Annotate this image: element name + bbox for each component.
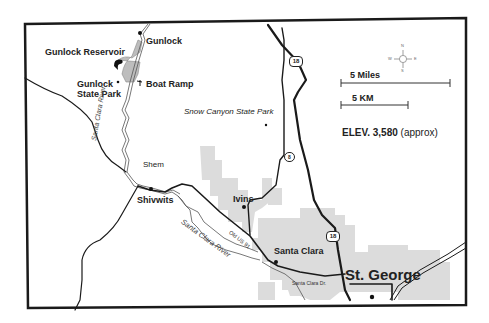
snow-canyon-marker bbox=[265, 124, 267, 126]
label-st-george: St. George bbox=[345, 267, 421, 282]
gunlock-marker bbox=[138, 31, 142, 35]
state-park-marker bbox=[117, 81, 120, 84]
route-18-shield-north: 18 bbox=[289, 56, 303, 67]
compass-s: S bbox=[401, 69, 404, 73]
ivins-marker bbox=[242, 205, 246, 209]
label-snow-canyon: Snow Canyon State Park bbox=[184, 108, 273, 116]
santa-clara-marker bbox=[274, 260, 278, 264]
reservoir-dam bbox=[114, 60, 123, 70]
route-18-shield-south: 18 bbox=[326, 231, 340, 242]
boat-ramp-icon bbox=[137, 80, 142, 86]
label-boat-ramp: Boat Ramp bbox=[146, 80, 194, 89]
label-gunlock-reservoir: Gunlock Reservoir bbox=[45, 48, 125, 57]
compass-n: N bbox=[401, 44, 404, 48]
compass-e: E bbox=[414, 57, 417, 61]
label-ivins: Ivins bbox=[233, 195, 254, 204]
label-gunlock: Gunlock bbox=[146, 37, 182, 46]
elevation-note: (approx) bbox=[401, 127, 438, 138]
label-santa-clara: Santa Clara bbox=[274, 247, 324, 256]
label-santa-clara-dr: Santa Clara Dr. bbox=[292, 281, 326, 286]
compass-icon bbox=[394, 50, 412, 68]
scale-km-label: 5 KM bbox=[352, 94, 374, 103]
label-gunlock-state-park-1: Gunlock bbox=[77, 80, 113, 89]
elevation-label: ELEV. 3,580 (approx) bbox=[342, 128, 438, 138]
elevation-value: ELEV. 3,580 bbox=[342, 127, 398, 138]
shivwits-marker bbox=[149, 187, 153, 191]
label-shem: Shem bbox=[143, 161, 164, 169]
label-shivwits: Shivwits bbox=[137, 196, 174, 205]
compass-w: W bbox=[388, 57, 392, 61]
st-george-marker bbox=[370, 295, 374, 299]
route-8-shield: 8 bbox=[284, 152, 295, 162]
scale-miles-label: 5 Miles bbox=[350, 71, 380, 80]
